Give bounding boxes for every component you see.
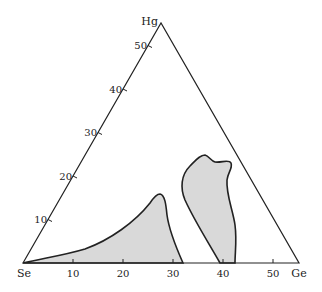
- bottom-tick-10: 10: [67, 268, 80, 279]
- left-tick-10: 10: [34, 214, 47, 225]
- glass-region-1: [23, 194, 183, 263]
- bottom-tick-20: 20: [117, 268, 130, 279]
- vertex-label-ge: Ge: [291, 267, 306, 280]
- left-axis-ticks: [48, 46, 152, 222]
- left-tick-20: 20: [59, 171, 72, 182]
- bottom-tick-40: 40: [217, 268, 230, 279]
- left-tick-40: 40: [109, 84, 122, 95]
- bottom-tick-30: 30: [167, 268, 180, 279]
- left-tick-50: 50: [134, 40, 147, 51]
- ternary-diagram: 10 20 30 40 50 10 20 30 40 50 Hg Se Ge: [0, 0, 322, 292]
- left-tick-30: 30: [84, 127, 97, 138]
- vertex-label-se: Se: [17, 267, 31, 280]
- vertex-label-hg: Hg: [141, 15, 158, 28]
- glass-region-2: [182, 155, 236, 263]
- bottom-tick-50: 50: [267, 268, 280, 279]
